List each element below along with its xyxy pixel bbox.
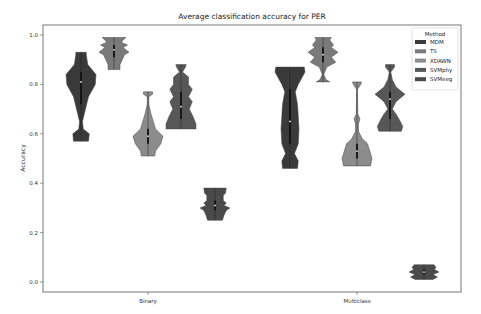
violin-median: [356, 150, 358, 152]
legend-label: SVMeeg: [430, 76, 452, 83]
legend-swatch: [415, 40, 426, 44]
violin-group: [66, 37, 439, 279]
legend-title: Method: [425, 31, 446, 37]
y-tick-label: 0.2: [29, 230, 38, 236]
violin-median: [289, 121, 291, 123]
violin-chart: Average classification accuracy for PER …: [0, 0, 481, 314]
y-tick-label: 0.0: [29, 279, 38, 285]
legend-label: XDAWN: [430, 58, 451, 64]
violin-median: [180, 106, 182, 108]
violin-median: [322, 54, 324, 56]
y-tick-label: 0.6: [29, 131, 38, 137]
violin-median: [147, 135, 149, 137]
chart-title: Average classification accuracy for PER: [178, 12, 325, 21]
x-tick-label: Binary: [139, 298, 157, 305]
violin-median: [423, 271, 425, 273]
legend-swatch: [415, 77, 426, 81]
violin-median: [214, 205, 216, 207]
violin-median: [113, 49, 115, 51]
legend-label: MDM: [430, 39, 444, 45]
legend-label: TS: [429, 48, 437, 54]
legend-swatch: [415, 49, 426, 53]
legend-label: SVMphy: [430, 67, 453, 74]
y-tick-label: 0.4: [29, 180, 38, 186]
violin-median: [80, 81, 82, 83]
legend: Method MDMTSXDAWNSVMphySVMeeg: [412, 28, 458, 90]
y-tick-label: 0.8: [29, 81, 38, 87]
legend-swatch: [415, 68, 426, 72]
y-axis-label: Accuracy: [19, 144, 27, 172]
x-tick-label: Multiclass: [343, 298, 370, 304]
y-axis: 0.00.20.40.60.81.0: [29, 32, 43, 285]
x-axis: BinaryMulticlass: [139, 292, 371, 305]
violin-median: [389, 98, 391, 100]
plot-frame: [43, 25, 461, 292]
legend-swatch: [415, 59, 426, 63]
y-tick-label: 1.0: [29, 32, 38, 38]
